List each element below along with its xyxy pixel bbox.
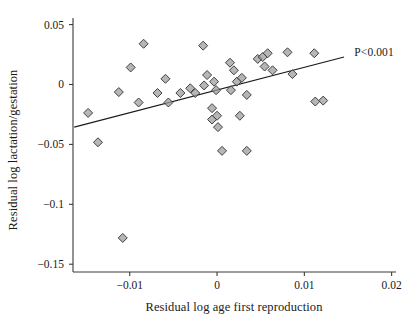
x-axis-label: Residual log age first reproduction bbox=[73, 300, 395, 315]
data-point bbox=[268, 66, 277, 75]
data-point bbox=[84, 108, 93, 117]
data-point bbox=[203, 71, 212, 80]
data-point bbox=[200, 81, 209, 90]
data-point bbox=[161, 74, 170, 83]
data-point bbox=[242, 146, 251, 155]
data-point bbox=[134, 98, 143, 107]
data-point bbox=[176, 89, 185, 98]
scatter-plot-figure bbox=[0, 0, 415, 330]
data-point bbox=[208, 104, 217, 113]
y-tick-label: 0.05 bbox=[44, 19, 64, 31]
data-point bbox=[199, 41, 208, 50]
x-tick-label: 0.01 bbox=[294, 279, 314, 291]
data-point bbox=[311, 97, 320, 106]
x-tick-label: 0 bbox=[214, 279, 220, 291]
data-point bbox=[210, 77, 219, 86]
y-tick-label: −0.05 bbox=[37, 138, 64, 150]
data-point bbox=[242, 90, 251, 99]
data-point bbox=[235, 111, 244, 120]
data-points-group bbox=[84, 39, 328, 242]
data-point bbox=[225, 58, 234, 67]
data-point bbox=[260, 62, 269, 71]
data-point bbox=[212, 86, 221, 95]
data-point bbox=[319, 96, 328, 105]
y-axis-label: Residual log lactation/gestation bbox=[6, 5, 28, 295]
data-point bbox=[214, 123, 223, 132]
p-value-annotation: P<0.001 bbox=[354, 46, 393, 58]
data-point bbox=[164, 98, 173, 107]
data-point bbox=[229, 66, 238, 75]
data-point bbox=[139, 39, 148, 48]
x-tick-label: 0.02 bbox=[382, 279, 402, 291]
data-point bbox=[93, 138, 102, 147]
y-axis-ticks bbox=[69, 25, 73, 265]
data-point bbox=[153, 89, 162, 98]
y-tick-label: −0.1 bbox=[43, 198, 64, 210]
data-point bbox=[310, 49, 319, 58]
axis-lines bbox=[73, 18, 396, 272]
data-point bbox=[283, 48, 292, 57]
data-point bbox=[126, 63, 135, 72]
y-tick-label: 0 bbox=[58, 78, 64, 90]
data-point bbox=[114, 88, 123, 97]
data-point bbox=[218, 146, 227, 155]
data-point bbox=[118, 233, 127, 242]
x-axis-ticks bbox=[130, 272, 392, 276]
x-tick-label: −0.01 bbox=[116, 279, 143, 291]
y-tick-label: −0.15 bbox=[37, 258, 64, 270]
